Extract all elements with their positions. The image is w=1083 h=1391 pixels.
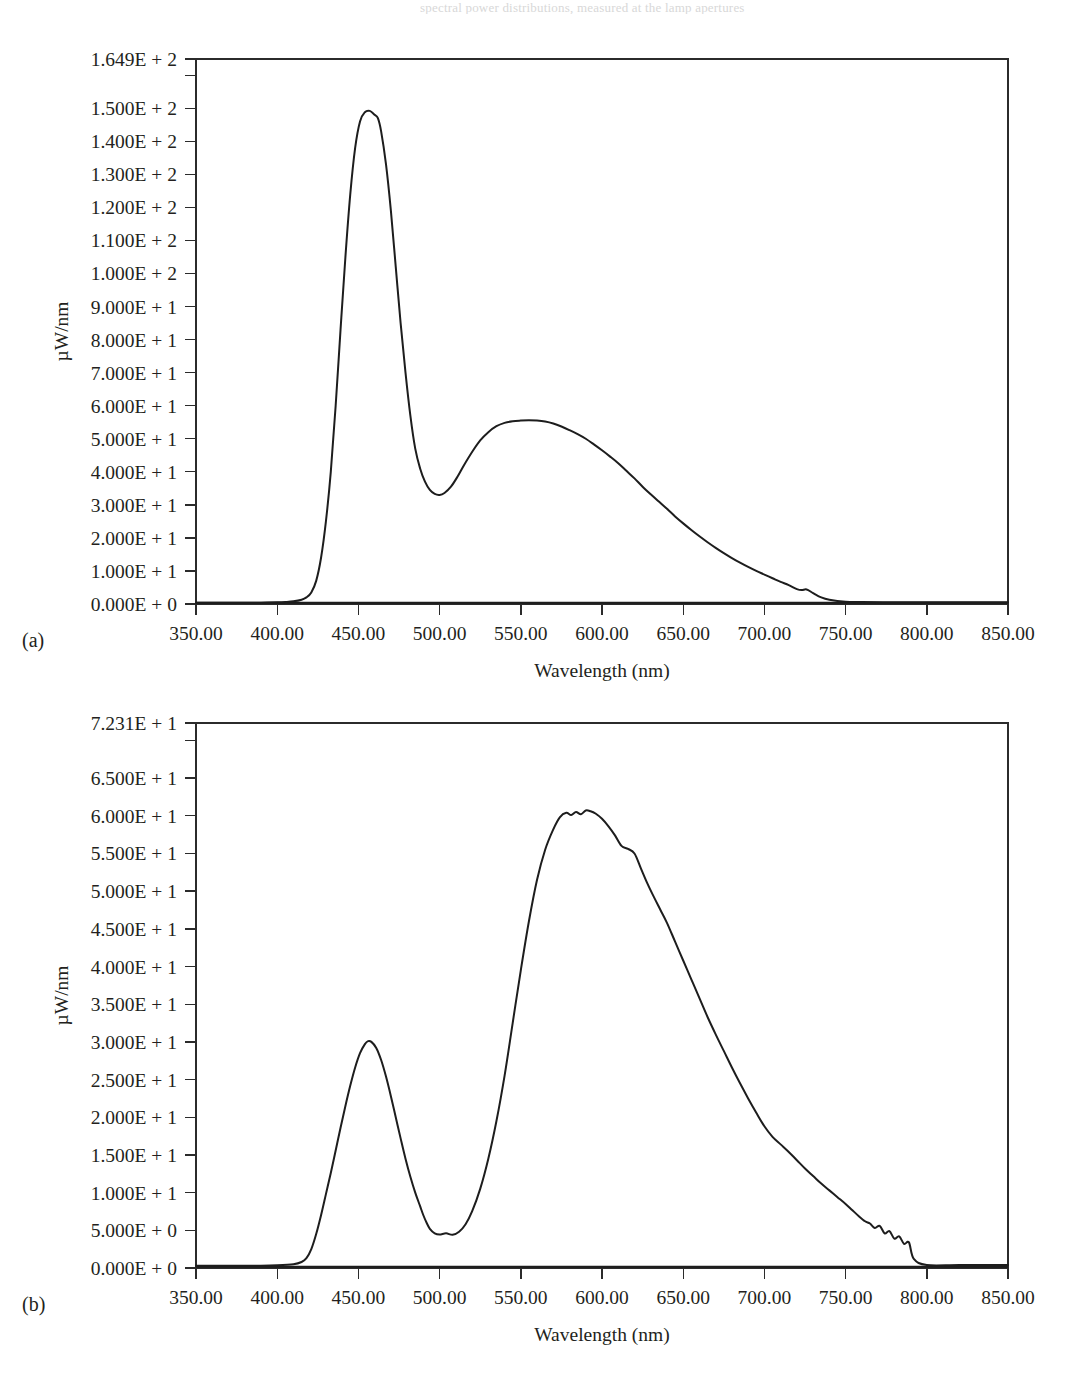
- y-axis-tick-label: 1.000E + 2: [91, 263, 177, 284]
- y-axis-tick-label: 7.231E + 1: [91, 713, 177, 734]
- spectrum-curve: [196, 810, 1008, 1265]
- y-axis-tick-label: 1.649E + 2: [91, 49, 177, 70]
- y-axis-tick-label: 1.300E + 2: [91, 164, 177, 185]
- cut-off-header-text: spectral power distributions, measured a…: [420, 0, 1060, 14]
- x-axis-tick-label: 500.00: [413, 1287, 467, 1308]
- y-axis-tick-label: 5.000E + 0: [91, 1220, 177, 1241]
- x-axis-tick-label: 350.00: [169, 623, 223, 644]
- y-axis-tick-label: 0.000E + 0: [91, 594, 177, 615]
- y-axis-tick-label: 3.500E + 1: [91, 994, 177, 1015]
- y-axis-tick-label: 9.000E + 1: [91, 297, 177, 318]
- x-axis-tick-label: 450.00: [332, 623, 386, 644]
- y-axis-tick-label: 5.000E + 1: [91, 429, 177, 450]
- y-axis-tick-label: 4.000E + 1: [91, 462, 177, 483]
- x-axis-tick-label: 650.00: [656, 1287, 710, 1308]
- x-axis-tick-label: 600.00: [575, 1287, 629, 1308]
- chart-panel-a: 1.649E + 21.500E + 21.400E + 21.300E + 2…: [0, 30, 1083, 690]
- x-axis-tick-label: 650.00: [656, 623, 710, 644]
- x-axis-tick-label: 700.00: [738, 623, 792, 644]
- y-axis-tick-label: 1.500E + 1: [91, 1145, 177, 1166]
- panel-sublabel: (b): [22, 1293, 45, 1316]
- y-axis-tick-label: 4.000E + 1: [91, 957, 177, 978]
- y-axis-tick-label: 8.000E + 1: [91, 330, 177, 351]
- panel-sublabel: (a): [22, 629, 44, 652]
- y-axis-tick-label: 6.500E + 1: [91, 768, 177, 789]
- x-axis-tick-label: 400.00: [250, 1287, 304, 1308]
- x-axis-tick-label: 750.00: [819, 623, 873, 644]
- x-axis-tick-label: 700.00: [738, 1287, 792, 1308]
- x-axis-tick-label: 600.00: [575, 623, 629, 644]
- y-axis-tick-label: 1.000E + 1: [91, 1183, 177, 1204]
- y-axis-tick-label: 4.500E + 1: [91, 919, 177, 940]
- y-axis-tick-label: 6.000E + 1: [91, 806, 177, 827]
- y-axis-tick-label: 2.000E + 1: [91, 528, 177, 549]
- y-axis-tick-label: 7.000E + 1: [91, 363, 177, 384]
- x-axis-tick-label: 350.00: [169, 1287, 223, 1308]
- x-axis-tick-label: 850.00: [981, 1287, 1035, 1308]
- y-axis-tick-label: 1.500E + 2: [91, 98, 177, 119]
- spectrum-curve: [196, 111, 1008, 603]
- chart-panel-b: 7.231E + 16.500E + 16.000E + 15.500E + 1…: [0, 694, 1083, 1354]
- y-axis-tick-label: 5.000E + 1: [91, 881, 177, 902]
- x-axis-title: Wavelength (nm): [534, 1324, 669, 1346]
- x-axis-tick-label: 500.00: [413, 623, 467, 644]
- y-axis-tick-label: 5.500E + 1: [91, 843, 177, 864]
- y-axis-tick-label: 2.000E + 1: [91, 1107, 177, 1128]
- y-axis-tick-label: 3.000E + 1: [91, 1032, 177, 1053]
- x-axis-tick-label: 400.00: [250, 623, 304, 644]
- figure-page: spectral power distributions, measured a…: [0, 0, 1083, 1391]
- x-axis-tick-label: 750.00: [819, 1287, 873, 1308]
- x-axis-tick-label: 800.00: [900, 1287, 954, 1308]
- y-axis-title: µW/nm: [51, 966, 72, 1026]
- spectrum-plot-b: 7.231E + 16.500E + 16.000E + 15.500E + 1…: [0, 694, 1083, 1354]
- y-axis-tick-label: 6.000E + 1: [91, 396, 177, 417]
- plot-frame: [196, 723, 1008, 1268]
- y-axis-tick-label: 1.100E + 2: [91, 230, 177, 251]
- y-axis-tick-label: 1.000E + 1: [91, 561, 177, 582]
- y-axis-tick-label: 3.000E + 1: [91, 495, 177, 516]
- x-axis-tick-label: 550.00: [494, 1287, 548, 1308]
- x-axis-tick-label: 850.00: [981, 623, 1035, 644]
- x-axis-tick-label: 550.00: [494, 623, 548, 644]
- y-axis-tick-label: 2.500E + 1: [91, 1070, 177, 1091]
- y-axis-title: µW/nm: [51, 302, 72, 362]
- x-axis-title: Wavelength (nm): [534, 660, 669, 682]
- cut-off-caption-text: [18, 1374, 1068, 1390]
- x-axis-tick-label: 800.00: [900, 623, 954, 644]
- y-axis-tick-label: 1.200E + 2: [91, 197, 177, 218]
- spectrum-plot-a: 1.649E + 21.500E + 21.400E + 21.300E + 2…: [0, 30, 1083, 690]
- y-axis-tick-label: 0.000E + 0: [91, 1258, 177, 1279]
- x-axis-tick-label: 450.00: [332, 1287, 386, 1308]
- y-axis-tick-label: 1.400E + 2: [91, 131, 177, 152]
- plot-frame: [196, 59, 1008, 604]
